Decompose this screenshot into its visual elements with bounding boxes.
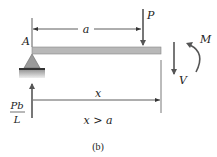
pin-support-icon bbox=[24, 54, 40, 68]
figure-caption: (b) bbox=[92, 141, 104, 153]
moment-arc bbox=[190, 45, 200, 72]
beam bbox=[32, 47, 161, 54]
ground-line bbox=[19, 68, 45, 70]
label-a: a bbox=[83, 23, 90, 36]
label-reaction-numerator: Pb bbox=[9, 100, 23, 111]
label-support-a: A bbox=[21, 35, 30, 48]
moment-arrowhead-icon bbox=[186, 42, 193, 48]
beam-free-body-diagram: a A P Pb L x x > a V M (b) bbox=[0, 0, 217, 157]
label-m: M bbox=[199, 33, 212, 46]
label-p: P bbox=[146, 9, 155, 22]
label-condition: x > a bbox=[84, 114, 113, 127]
label-v: V bbox=[179, 74, 188, 87]
label-reaction-denominator: L bbox=[13, 114, 21, 125]
ground-hatch bbox=[19, 70, 45, 78]
label-x: x bbox=[95, 87, 102, 100]
